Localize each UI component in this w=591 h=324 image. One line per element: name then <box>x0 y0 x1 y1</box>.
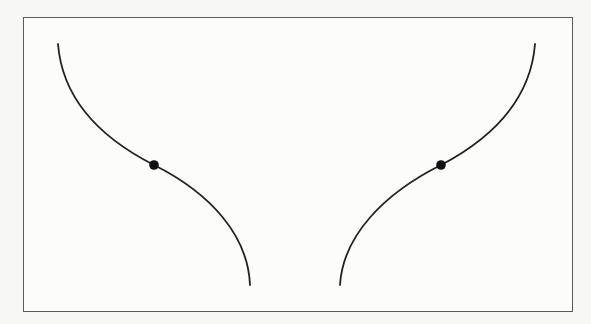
diagram-canvas <box>0 0 591 324</box>
figure-page <box>0 0 591 324</box>
right-inflection-point <box>436 160 446 170</box>
left-inflection-point <box>149 160 159 170</box>
